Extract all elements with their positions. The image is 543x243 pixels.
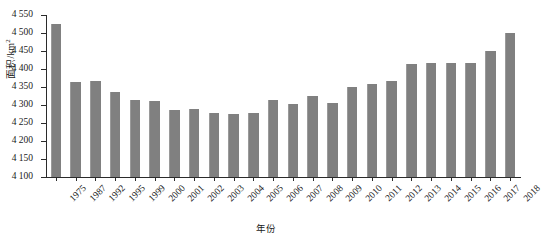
x-axis-tick [411, 177, 412, 181]
y-axis-tick-label: 4 100 [12, 170, 33, 183]
x-axis-tick [253, 177, 254, 181]
x-axis-tick-label: 1992 [107, 183, 128, 204]
bar [90, 81, 100, 177]
x-axis-line [46, 177, 521, 178]
y-axis-tick-label: 4 350 [12, 80, 33, 93]
x-axis-tick [471, 177, 472, 181]
x-axis-tick [155, 177, 156, 181]
x-axis-tick [56, 177, 57, 181]
bar [406, 64, 416, 177]
x-axis-tick [95, 177, 96, 181]
bar [149, 101, 159, 177]
x-axis-tick [510, 177, 511, 181]
bar [110, 92, 120, 177]
bar [505, 33, 515, 177]
x-axis-tick-label: 2013 [423, 183, 444, 204]
y-axis-tick-label: 4 500 [12, 26, 33, 39]
bar [268, 100, 278, 177]
bar [367, 84, 377, 177]
bar [307, 96, 317, 177]
y-axis-tick: 4 550 [41, 15, 46, 16]
y-axis-tick-label: 4 200 [12, 134, 33, 147]
y-axis-tick-label: 4 400 [12, 62, 33, 75]
y-axis-tick: 4 350 [41, 87, 46, 88]
x-axis-tick-label: 2015 [462, 183, 483, 204]
x-axis-tick-label: 2018 [522, 183, 543, 204]
bar [130, 100, 140, 177]
x-axis-tick-label: 2006 [285, 183, 306, 204]
x-axis-tick [174, 177, 175, 181]
x-axis-tick [273, 177, 274, 181]
x-axis-tick-label: 2017 [502, 183, 523, 204]
x-axis-tick [352, 177, 353, 181]
x-axis-tick [431, 177, 432, 181]
x-axis-tick-label: 2000 [166, 183, 187, 204]
bar [386, 81, 396, 177]
x-axis-tick [313, 177, 314, 181]
x-axis-tick-label: 2012 [403, 183, 424, 204]
y-axis-tick-label: 4 250 [12, 116, 33, 129]
y-axis-tick: 4 500 [41, 33, 46, 34]
x-axis-tick-label: 2004 [245, 183, 266, 204]
bar [51, 24, 61, 177]
x-axis-tick [392, 177, 393, 181]
bar [485, 51, 495, 177]
x-axis-tick-label: 2003 [225, 183, 246, 204]
x-axis-tick-label: 2001 [186, 183, 207, 204]
bar [347, 87, 357, 177]
bar [209, 113, 219, 177]
y-axis-tick: 4 450 [41, 51, 46, 52]
x-axis-tick-label: 2002 [206, 183, 227, 204]
bar [228, 114, 238, 177]
x-axis-tick [234, 177, 235, 181]
x-axis-tick [76, 177, 77, 181]
y-axis-tick-label: 4 150 [12, 152, 33, 165]
bar [327, 103, 337, 177]
y-axis-tick: 4 100 [41, 177, 46, 178]
x-axis-tick [135, 177, 136, 181]
x-axis-tick-label: 2005 [265, 183, 286, 204]
y-axis-tick-label: 4 300 [12, 98, 33, 111]
x-axis-tick [490, 177, 491, 181]
x-axis-tick-label: 2010 [364, 183, 385, 204]
bar [70, 82, 80, 177]
y-axis-tick-label: 4 450 [12, 44, 33, 57]
x-axis-tick [372, 177, 373, 181]
x-axis-tick-label: 1987 [87, 183, 108, 204]
y-axis-unit-exponent: 2 [4, 39, 12, 43]
x-axis-tick-label: 1995 [127, 183, 148, 204]
y-axis-tick: 4 150 [41, 159, 46, 160]
y-axis-tick: 4 300 [41, 105, 46, 106]
x-axis-title: 年份 [0, 221, 532, 235]
x-axis-tick-label: 2009 [344, 183, 365, 204]
bar [248, 113, 258, 177]
x-axis-tick [332, 177, 333, 181]
x-axis-tick [293, 177, 294, 181]
bar [288, 104, 298, 177]
bar [169, 110, 179, 177]
x-axis-tick-label: 2007 [304, 183, 325, 204]
bar [189, 109, 199, 177]
y-axis-tick: 4 200 [41, 141, 46, 142]
y-axis-tick: 4 250 [41, 123, 46, 124]
x-axis-tick [115, 177, 116, 181]
x-axis-tick [451, 177, 452, 181]
x-axis-tick-label: 2008 [324, 183, 345, 204]
x-axis-tick-label: 2011 [383, 183, 404, 204]
x-axis-tick-label: 1975 [67, 183, 88, 204]
bar [446, 63, 456, 177]
x-axis-tick-label: 2014 [443, 183, 464, 204]
x-axis-tick [214, 177, 215, 181]
bar [465, 63, 475, 177]
x-axis-tick-label: 1999 [146, 183, 167, 204]
plot-area: 4 5504 5004 4504 4004 3504 3004 2504 200… [46, 15, 520, 177]
bar [426, 63, 436, 177]
x-axis-tick-label: 2016 [482, 183, 503, 204]
x-axis-tick [194, 177, 195, 181]
y-axis-tick: 4 400 [41, 69, 46, 70]
y-axis-tick-label: 4 550 [12, 8, 33, 21]
